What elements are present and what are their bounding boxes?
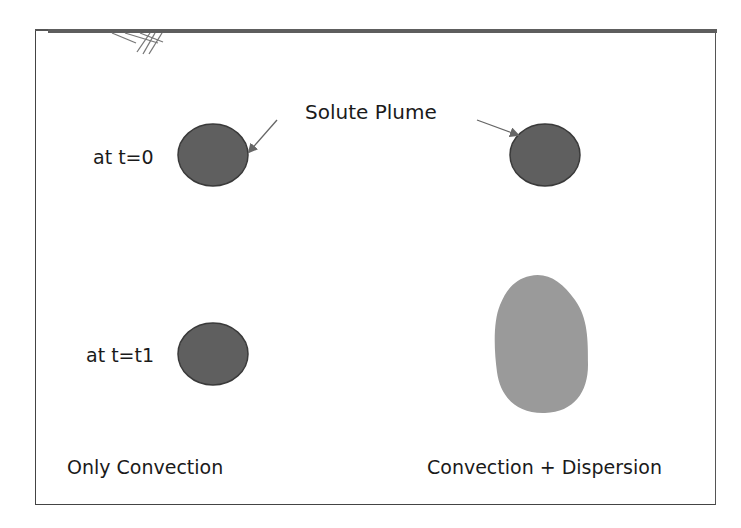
diagram-graphics <box>0 0 741 528</box>
arrow-to-plume-right <box>477 120 518 135</box>
arrow-to-plume-left <box>249 120 277 152</box>
plume-t0-convection <box>178 124 248 186</box>
plume-t1-dispersed <box>495 275 588 413</box>
hatch-marks <box>112 33 163 54</box>
plume-t0-dispersion <box>510 124 580 186</box>
solute-plume-label: Solute Plume <box>305 102 437 122</box>
plume-t1-convection <box>178 323 248 385</box>
caption-only-convection: Only Convection <box>67 458 223 477</box>
row-label-t0: at t=0 <box>93 148 154 167</box>
caption-convection-dispersion: Convection + Dispersion <box>427 458 662 477</box>
row-label-t1: at t=t1 <box>86 346 154 365</box>
